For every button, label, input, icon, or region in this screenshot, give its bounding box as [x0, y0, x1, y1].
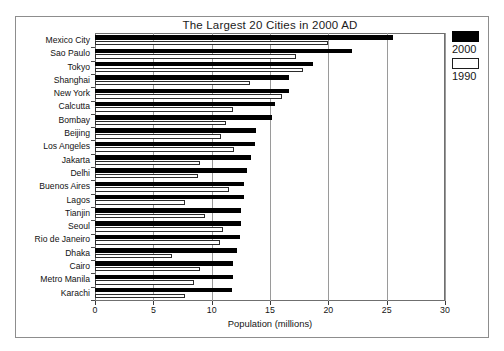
chart-title: The Largest 20 Cities in 2000 AD: [95, 19, 445, 31]
y-axis-label-buenos-aires: Buenos Aires: [12, 180, 92, 193]
bar-row: [95, 140, 444, 153]
bar-1990-los-angeles: [95, 147, 234, 152]
y-axis-label-calcutta: Calcutta: [12, 100, 92, 113]
bar-2000-calcutta: [95, 102, 275, 107]
bar-1990-jakarta: [95, 161, 200, 166]
bar-2000-new-york: [95, 89, 289, 94]
x-tick-label-30: 30: [440, 305, 450, 315]
bar-1990-karachi: [95, 294, 185, 299]
bar-2000-tianjin: [95, 208, 241, 213]
bar-1990-dhaka: [95, 254, 172, 259]
x-axis-title: Population (millions): [95, 318, 445, 329]
bar-row: [95, 194, 444, 207]
bar-row: [95, 220, 444, 233]
bar-1990-metro-manila: [95, 280, 194, 285]
bar-row: [95, 61, 444, 74]
bar-2000-sao-paulo: [95, 49, 352, 54]
legend-swatch-1990: [452, 58, 479, 69]
bar-2000-jakarta: [95, 155, 251, 160]
bar-row: [95, 74, 444, 87]
bar-2000-mexico-city: [95, 35, 393, 40]
y-axis-label-shanghai: Shanghai: [12, 74, 92, 87]
bar-2000-seoul: [95, 221, 241, 226]
bar-row: [95, 233, 444, 246]
y-axis-label-sao-paulo: Sao Paulo: [12, 47, 92, 60]
bar-1990-delhi: [95, 174, 198, 179]
legend-entry-2000: 2000: [452, 31, 486, 56]
bar-2000-lagos: [95, 195, 244, 200]
y-axis-label-karachi: Karachi: [12, 287, 92, 300]
bar-1990-cairo: [95, 267, 200, 272]
bar-2000-shanghai: [95, 75, 289, 80]
chart-legend: 2000 1990: [452, 31, 486, 85]
bar-2000-buenos-aires: [95, 182, 244, 187]
bar-1990-rio-de-janeiro: [95, 240, 220, 245]
x-tick-label-25: 25: [382, 305, 392, 315]
bar-2000-dhaka: [95, 248, 237, 253]
bar-2000-cairo: [95, 261, 233, 266]
bar-row: [95, 47, 444, 60]
x-tick-label-5: 5: [151, 305, 156, 315]
y-axis-label-cairo: Cairo: [12, 260, 92, 273]
bar-2000-tokyo: [95, 62, 313, 67]
bar-2000-metro-manila: [95, 275, 233, 280]
bar-row: [95, 114, 444, 127]
y-axis-label-seoul: Seoul: [12, 220, 92, 233]
y-axis-label-tokyo: Tokyo: [12, 61, 92, 74]
legend-label-2000: 2000: [452, 43, 486, 56]
bar-row: [95, 273, 444, 286]
y-axis-label-rio-de-janeiro: Rio de Janeiro: [12, 233, 92, 246]
bar-1990-shanghai: [95, 81, 250, 86]
gridline-30: [445, 33, 446, 301]
bar-2000-rio-de-janeiro: [95, 235, 240, 240]
y-axis-label-new-york: New York: [12, 87, 92, 100]
y-axis-label-lagos: Lagos: [12, 194, 92, 207]
bar-1990-tokyo: [95, 68, 303, 73]
y-axis-label-mexico-city: Mexico City: [12, 34, 92, 47]
x-tick-label-15: 15: [265, 305, 275, 315]
bar-1990-tianjin: [95, 214, 205, 219]
legend-label-1990: 1990: [452, 70, 486, 83]
bar-1990-sao-paulo: [95, 54, 296, 59]
bar-row: [95, 100, 444, 113]
bar-row: [95, 127, 444, 140]
bar-row: [95, 34, 444, 47]
y-axis-label-dhaka: Dhaka: [12, 247, 92, 260]
bar-1990-beijing: [95, 134, 221, 139]
bar-2000-karachi: [95, 288, 232, 293]
y-axis-label-jakarta: Jakarta: [12, 154, 92, 167]
bar-row: [95, 207, 444, 220]
y-axis-label-delhi: Delhi: [12, 167, 92, 180]
bar-2000-bombay: [95, 115, 272, 120]
y-axis-label-los-angeles: Los Angeles: [12, 140, 92, 153]
legend-swatch-2000: [452, 31, 479, 42]
y-axis-label-beijing: Beijing: [12, 127, 92, 140]
x-tick-label-10: 10: [207, 305, 217, 315]
y-axis-label-metro-manila: Metro Manila: [12, 273, 92, 286]
bar-row: [95, 180, 444, 193]
bar-1990-buenos-aires: [95, 187, 229, 192]
bar-2000-beijing: [95, 128, 256, 133]
y-axis-label-tianjin: Tianjin: [12, 207, 92, 220]
bar-row: [95, 154, 444, 167]
bar-2000-delhi: [95, 168, 247, 173]
bar-row: [95, 247, 444, 260]
bar-1990-seoul: [95, 227, 223, 232]
bars-group: [95, 34, 444, 300]
bar-1990-calcutta: [95, 107, 233, 112]
y-axis-label-bombay: Bombay: [12, 114, 92, 127]
bar-1990-new-york: [95, 94, 282, 99]
bar-row: [95, 287, 444, 300]
legend-entry-1990: 1990: [452, 58, 486, 83]
y-axis-category-labels: Mexico CitySao PauloTokyoShanghaiNew Yor…: [12, 34, 92, 300]
bar-2000-los-angeles: [95, 142, 255, 147]
bar-1990-lagos: [95, 200, 185, 205]
bar-1990-bombay: [95, 121, 226, 126]
bar-row: [95, 260, 444, 273]
x-tick-label-0: 0: [93, 305, 98, 315]
bar-1990-mexico-city: [95, 41, 328, 46]
x-tick-label-20: 20: [323, 305, 333, 315]
bar-row: [95, 167, 444, 180]
bar-row: [95, 87, 444, 100]
